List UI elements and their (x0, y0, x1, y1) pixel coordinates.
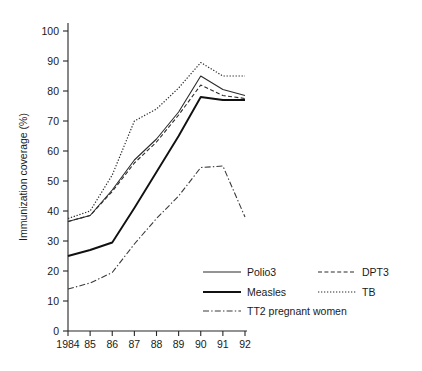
legend-label-measles: Measles (247, 286, 286, 298)
axes (63, 23, 247, 336)
x-axis-ticks (68, 331, 245, 336)
y-tick-label: 30 (47, 235, 59, 247)
y-axis-ticks (63, 31, 68, 331)
x-tick-label: 91 (217, 338, 229, 350)
chart-legend: Polio3DPT3MeaslesTBTT2 pregnant women (203, 266, 389, 317)
y-tick-label: 80 (47, 85, 59, 97)
series-line-measles (68, 97, 245, 256)
x-tick-label: 88 (151, 338, 163, 350)
series-line-tb (68, 63, 245, 219)
legend-label-polio3: Polio3 (247, 266, 276, 278)
y-tick-label: 60 (47, 145, 59, 157)
y-tick-label: 100 (41, 25, 59, 37)
y-tick-label: 20 (47, 265, 59, 277)
legend-label-dpt3: DPT3 (362, 266, 389, 278)
series-line-polio3 (68, 76, 245, 222)
y-tick-label: 0 (53, 325, 59, 337)
series-line-dpt3 (68, 85, 245, 222)
x-tick-label: 86 (106, 338, 118, 350)
y-tick-label: 70 (47, 115, 59, 127)
y-tick-label: 50 (47, 175, 59, 187)
legend-label-tt2-pregnant-women: TT2 pregnant women (247, 305, 347, 317)
series-line-tt2-pregnant-women (68, 166, 245, 289)
immunization-coverage-chart: 0102030405060708090100 19848586878889909… (0, 0, 422, 371)
y-tick-label: 40 (47, 205, 59, 217)
x-tick-label: 1984 (56, 338, 80, 350)
y-tick-label: 10 (47, 295, 59, 307)
x-tick-label: 90 (195, 338, 207, 350)
y-axis-title: Immunization coverage (%) (17, 113, 29, 241)
x-tick-label: 87 (129, 338, 141, 350)
y-tick-label: 90 (47, 55, 59, 67)
legend-label-tb: TB (362, 286, 375, 298)
x-tick-label: 89 (173, 338, 185, 350)
x-tick-label: 92 (239, 338, 251, 350)
x-axis-tick-labels: 19848586878889909192 (56, 338, 251, 350)
data-series-group (68, 63, 245, 290)
x-tick-label: 85 (84, 338, 96, 350)
y-axis-tick-labels: 0102030405060708090100 (41, 25, 59, 337)
chart-canvas: 0102030405060708090100 19848586878889909… (0, 0, 422, 371)
